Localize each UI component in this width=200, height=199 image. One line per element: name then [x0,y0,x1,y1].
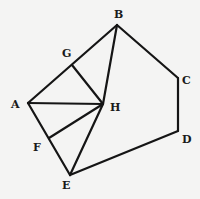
segment-bc [117,25,178,78]
vertex-label-c: C [182,74,191,87]
segments-group [28,25,178,175]
segment-ab [28,25,117,103]
vertex-label-d: D [182,133,192,146]
vertex-label-b: B [114,8,123,21]
vertex-label-a: A [10,98,20,111]
vertex-label-h: H [110,101,120,114]
segment-gh [72,65,103,104]
segment-ah [28,103,103,104]
vertex-label-e: E [62,179,70,192]
vertex-label-g: G [62,47,71,60]
geometry-diagram: ABCDEFGH [0,0,200,199]
vertex-label-f: F [33,141,41,154]
